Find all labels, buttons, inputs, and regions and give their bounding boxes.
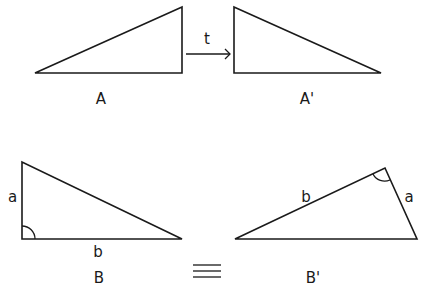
- side-a-label: a: [404, 188, 413, 206]
- triangle-a-prime-label: A': [300, 90, 314, 108]
- side-a-label: a: [8, 188, 17, 206]
- side-b-label: b: [301, 188, 311, 206]
- congruence-diagram: A t A' a b B b a B': [0, 0, 425, 291]
- triangle-a: A: [35, 7, 182, 108]
- triangle-a-shape: [35, 7, 182, 73]
- triangle-b-prime-shape: [235, 168, 417, 239]
- congruence-symbol: [193, 265, 221, 277]
- transform-label: t: [204, 30, 210, 48]
- triangle-a-label: A: [96, 90, 107, 108]
- transform-arrow: t: [186, 30, 230, 59]
- triangle-a-prime: A': [234, 7, 381, 108]
- triangle-b-prime-label: B': [306, 269, 320, 287]
- triangle-b-label: B: [94, 269, 104, 287]
- triangle-b-shape: [22, 162, 182, 239]
- triangle-b: a b B: [8, 162, 182, 287]
- side-b-label: b: [93, 243, 103, 261]
- angle-arc-icon: [22, 226, 35, 239]
- triangle-b-prime: b a B': [235, 168, 417, 287]
- triangle-a-prime-shape: [234, 7, 381, 73]
